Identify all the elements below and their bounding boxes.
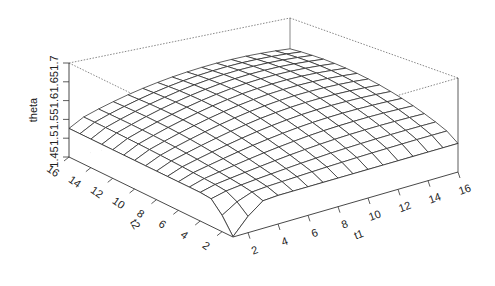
t2-tick-label: 14 bbox=[67, 173, 84, 190]
t1-tick-label: 12 bbox=[397, 199, 413, 214]
t1-tick-label: 14 bbox=[427, 190, 443, 205]
t2-axis-title: t2 bbox=[128, 217, 143, 231]
z-tick-label: 1.65 bbox=[48, 71, 60, 92]
t1-tick-label: 6 bbox=[310, 226, 320, 239]
t1-axis-title: t1 bbox=[352, 227, 365, 241]
z-tick-label: 1.7 bbox=[48, 55, 60, 70]
z-tick-label: 1.5 bbox=[48, 131, 60, 146]
z-tick-label: 1.55 bbox=[48, 109, 60, 130]
z-tick-label: 1.6 bbox=[48, 93, 60, 108]
surface-plot: 1.451.51.551.61.651.7 246810121416 24681… bbox=[0, 0, 495, 286]
t2-tick-label: 2 bbox=[200, 239, 212, 252]
t2-tick-label: 6 bbox=[157, 217, 169, 230]
z-axis: 1.451.51.551.61.651.7 bbox=[48, 55, 69, 167]
t2-tick-label: 10 bbox=[110, 194, 127, 211]
t1-tick-label: 10 bbox=[367, 208, 383, 223]
t1-tick-label: 8 bbox=[340, 217, 350, 230]
z-axis-title: theta bbox=[27, 97, 39, 122]
t1-tick-label: 2 bbox=[250, 243, 260, 256]
t2-tick-label: 12 bbox=[89, 184, 106, 201]
t1-tick-label: 16 bbox=[457, 182, 473, 197]
t2-tick-label: 4 bbox=[179, 228, 191, 241]
t1-tick-label: 4 bbox=[280, 235, 290, 248]
